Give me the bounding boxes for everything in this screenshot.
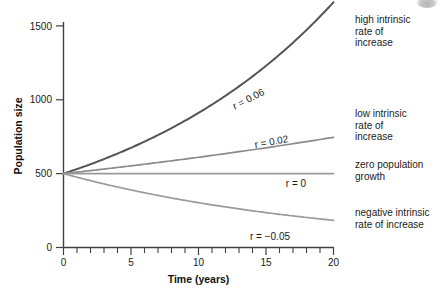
inline-label-rneg005: r = −0.05 — [250, 231, 290, 242]
y-axis-ticks — [56, 26, 64, 248]
y-axis-title: Population size — [12, 97, 24, 174]
x-tick-label-15: 15 — [260, 257, 272, 268]
x-tick-label-20: 20 — [328, 257, 340, 268]
legend-zero-growth: zero population growth — [355, 159, 423, 182]
inline-label-r006: r = 0.06 — [231, 86, 267, 112]
y-tick-label-0: 0 — [46, 242, 52, 253]
legend-low-intrinsic: low intrinsic rate of increase — [355, 108, 407, 143]
chart-figure: 0 500 1000 1500 — [0, 0, 444, 298]
y-tick-label-500: 500 — [35, 168, 52, 179]
x-tick-label-0: 0 — [61, 257, 67, 268]
y-tick-label-1000: 1000 — [30, 94, 53, 105]
x-axis-title: Time (years) — [168, 273, 230, 285]
x-tick-label-10: 10 — [193, 257, 205, 268]
x-tick-label-5: 5 — [128, 257, 134, 268]
y-tick-label-1500: 1500 — [30, 21, 53, 32]
legend-negative-intrinsic: negative intrinsic rate of increase — [355, 207, 429, 230]
legend-high-intrinsic: high intrinsic rate of increase — [355, 14, 411, 49]
curve-high-intrinsic — [64, 2, 334, 173]
curve-low-intrinsic — [64, 137, 334, 173]
inline-label-r0: r = 0 — [286, 178, 307, 189]
